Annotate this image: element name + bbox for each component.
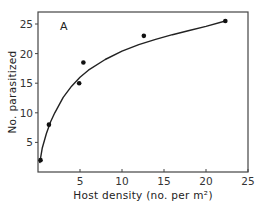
data-point [223, 19, 228, 24]
y-tick-label: 20 [20, 48, 33, 60]
y-axis-label: No. parasitized [6, 42, 18, 142]
panel-label: A [60, 20, 68, 33]
fitted-curve [40, 21, 226, 163]
chart: 510152025510152025 A No. parasitized Hos… [0, 0, 265, 207]
y-tick-label: 10 [20, 107, 33, 119]
x-tick-label: 25 [241, 175, 254, 187]
y-tick-label: 15 [20, 77, 33, 89]
data-point [77, 81, 82, 86]
x-axis-label: Host density (no. per m²) [38, 189, 248, 201]
data-point [142, 34, 147, 39]
data-point [47, 122, 52, 127]
plot-area: 510152025510152025 [0, 0, 265, 207]
x-tick-label: 10 [115, 175, 128, 187]
data-point [38, 158, 43, 163]
y-tick-label: 25 [20, 18, 33, 30]
x-tick-label: 15 [157, 175, 170, 187]
x-tick-label: 5 [77, 175, 84, 187]
x-tick-label: 20 [199, 175, 212, 187]
y-tick-label: 5 [26, 136, 33, 148]
data-point [81, 60, 86, 65]
